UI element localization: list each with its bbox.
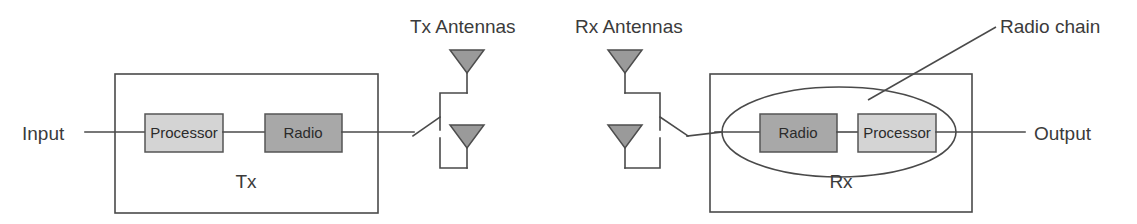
rx-enclosure-label: Rx [829, 171, 853, 192]
rx-radio-block: Radio [760, 114, 837, 152]
radio-chain-leader-line [868, 27, 996, 100]
radio-chain-diagram: Tx Antennas Input Processor [0, 0, 1137, 224]
rx-radio-label: Radio [778, 124, 817, 141]
tx-radio-block: Radio [265, 114, 342, 152]
tx-antenna-2-icon [450, 125, 484, 148]
tx-processor-block: Processor [145, 114, 223, 152]
tx-antennas-label: Tx Antennas [410, 16, 516, 37]
rx-processor-block: Processor [858, 114, 936, 152]
rx-antenna-2 [608, 125, 642, 168]
rx-processor-label: Processor [863, 124, 931, 141]
rx-antennas-label: Rx Antennas [575, 16, 683, 37]
tx-input-label: Input [22, 123, 65, 144]
tx-processor-label: Processor [150, 124, 218, 141]
diagram-canvas: Tx Antennas Input Processor [0, 0, 1137, 224]
radio-chain-label: Radio chain [1000, 16, 1100, 37]
tx-antenna-1 [450, 50, 484, 93]
rx-output-label: Output [1034, 123, 1092, 144]
rx-antenna-1-icon [608, 50, 642, 73]
tx-antenna-1-icon [450, 50, 484, 73]
tx-radio-label: Radio [283, 124, 322, 141]
rx-antenna-2-icon [608, 125, 642, 148]
rx-antenna-1 [608, 50, 642, 93]
rx-antenna-2-bracket [625, 138, 660, 168]
tx-antenna-switch[interactable] [413, 117, 440, 136]
tx-enclosure-label: Tx [235, 171, 257, 192]
rx-antenna-switch[interactable] [660, 117, 688, 136]
tx-antenna-2 [450, 125, 484, 168]
